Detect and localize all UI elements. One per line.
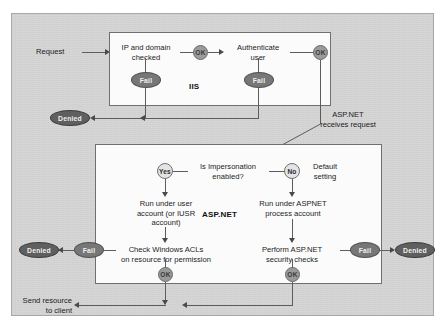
connector-ok-seccheck-down — [292, 282, 293, 305]
send-resource-to-client-label: Send resource to client — [12, 296, 72, 315]
diagram-page: IIS Request IP and domain checked OK Fai… — [0, 0, 446, 330]
branch-run-under-user-account: Run under user account (or IUSR account) — [130, 199, 202, 228]
connector-aspnetbranch-down — [292, 219, 293, 240]
aspnet-zone-label: ASP.NET — [202, 210, 237, 219]
no-node: No — [284, 163, 300, 179]
fail-node-security-checks: Fail — [350, 242, 380, 258]
yes-node: Yes — [157, 163, 173, 179]
connector-decision-to-no — [269, 171, 285, 172]
check-windows-acls: Check Windows ACLs on resource for permi… — [112, 245, 220, 264]
ok-node-acls: OK — [158, 267, 173, 282]
denied-node-security-checks: Denied — [395, 242, 435, 258]
ok-node-security-checks: OK — [285, 267, 300, 282]
connector-ok-acls-down — [165, 282, 166, 302]
connector-decision-to-yes — [172, 171, 188, 172]
arrowhead-yes-down — [162, 192, 168, 197]
diagram-frame: IIS Request IP and domain checked OK Fai… — [11, 13, 434, 316]
arrowhead-userbranch-down — [162, 238, 168, 243]
arrowhead-aspnetbranch-down — [289, 238, 295, 243]
default-setting-note: Default setting — [302, 162, 348, 181]
denied-node-acls: Denied — [19, 242, 59, 258]
arrowhead-no-down — [289, 192, 295, 197]
connector-ok-seccheck-left — [184, 305, 293, 306]
aspnet-receives-request-note: ASP.NET receives request — [304, 110, 392, 129]
arrowhead-ok-seccheck-join — [182, 302, 187, 308]
connector-acls-to-fail — [104, 250, 116, 251]
arrowhead-to-exit — [74, 302, 79, 308]
branch-run-under-aspnet-account: Run under ASPNET process account — [252, 199, 334, 218]
decision-impersonation-enabled: Is Impersonation enabled? — [187, 162, 269, 181]
fail-node-acls: Fail — [74, 242, 104, 258]
connector-to-exit — [76, 305, 166, 306]
